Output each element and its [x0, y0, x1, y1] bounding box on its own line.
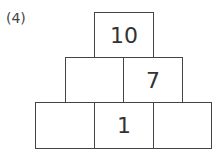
- pyramid-middle-right-cell: 7: [123, 57, 183, 103]
- pyramid-middle-left-cell: [65, 57, 125, 103]
- problem-number: (4): [6, 10, 26, 26]
- pyramid-bottom-middle-cell: 1: [94, 102, 154, 149]
- pyramid-bottom-left-cell: [35, 102, 95, 149]
- pyramid-bottom-right-cell: [153, 102, 212, 149]
- pyramid-top-cell: 10: [94, 12, 154, 58]
